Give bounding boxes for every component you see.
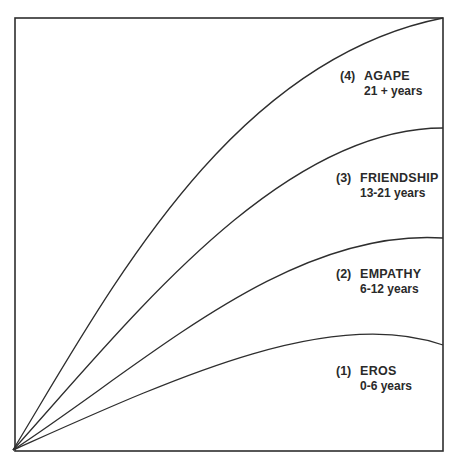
stage-label-agape: (4)AGAPE 21 + years (340, 69, 422, 99)
stage-name: EMPATHY (360, 267, 421, 281)
stage-name: AGAPE (364, 69, 410, 83)
stage-label-friendship: (3)FRIENDSHIP 13-21 years (336, 171, 439, 201)
stage-number: (2) (336, 267, 360, 282)
stage-name: FRIENDSHIP (360, 171, 439, 185)
stage-age: 21 + years (340, 84, 422, 99)
stage-label-empathy: (2)EMPATHY 6-12 years (336, 267, 421, 297)
stage-number: (4) (340, 69, 364, 84)
stage-age: 6-12 years (336, 282, 421, 297)
stage-number: (1) (336, 364, 360, 379)
stage-label-eros: (1)EROS 0-6 years (336, 364, 412, 394)
stage-name: EROS (360, 364, 397, 378)
stage-number: (3) (336, 171, 360, 186)
stage-age: 0-6 years (336, 379, 412, 394)
stage-age: 13-21 years (336, 186, 439, 201)
